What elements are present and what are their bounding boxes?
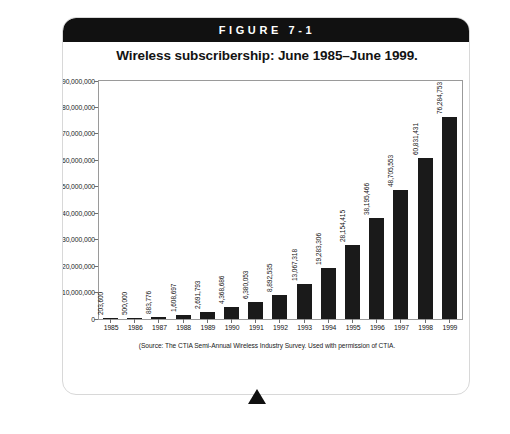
bar[interactable] bbox=[321, 268, 336, 319]
y-axis-tick-label: 50,000,000 bbox=[62, 183, 98, 190]
bar-slot: 6,380,053 bbox=[244, 81, 268, 319]
y-axis-tick-label: 10,000,000 bbox=[62, 289, 98, 296]
bar-slot: 60,831,431 bbox=[414, 81, 438, 319]
bar-value-label: 8,892,535 bbox=[266, 264, 273, 292]
bar-slot: 8,892,535 bbox=[268, 81, 292, 319]
bar-slot: 76,284,753 bbox=[438, 81, 462, 319]
x-axis-tick-label: 1992 bbox=[268, 324, 292, 331]
y-axis-tick-label: 30,000,000 bbox=[62, 236, 98, 243]
bar[interactable] bbox=[272, 295, 287, 319]
x-axis-tick-mark bbox=[255, 319, 256, 323]
figure-header-bar: FIGURE 7-1 bbox=[63, 18, 470, 42]
bar-value-label: 883,776 bbox=[145, 291, 152, 314]
x-axis-tick-mark bbox=[449, 319, 450, 323]
bar-value-label: 2,691,793 bbox=[194, 280, 201, 308]
y-axis-tick-label: 60,000,000 bbox=[62, 157, 98, 164]
x-axis-tick-label: 1996 bbox=[365, 324, 389, 331]
y-axis-tick-label: 80,000,000 bbox=[62, 104, 98, 111]
bar[interactable] bbox=[224, 307, 239, 319]
bar-slot: 13,067,318 bbox=[293, 81, 317, 319]
bar-slot: 883,776 bbox=[147, 81, 171, 319]
bar-value-label: 4,368,686 bbox=[218, 276, 225, 304]
x-axis-tick-mark bbox=[158, 319, 159, 323]
bar-value-label: 19,283,306 bbox=[315, 233, 322, 265]
x-axis-tick-mark bbox=[400, 319, 401, 323]
x-axis-tick-label: 1998 bbox=[414, 324, 438, 331]
bar-slot: 38,195,466 bbox=[365, 81, 389, 319]
bar-slot: 500,000 bbox=[123, 81, 147, 319]
bar-slot: 4,368,686 bbox=[220, 81, 244, 319]
y-axis-tick-label: 70,000,000 bbox=[62, 130, 98, 137]
bar-value-label: 500,000 bbox=[121, 292, 128, 315]
figure-card: FIGURE 7-1 Wireless subscribership: June… bbox=[62, 17, 470, 395]
triangle-pointer-icon bbox=[248, 389, 266, 404]
bar-value-label: 1,608,697 bbox=[170, 283, 177, 311]
bar[interactable] bbox=[248, 302, 263, 319]
bar-value-label: 28,154,415 bbox=[339, 210, 346, 242]
x-axis-tick-mark bbox=[183, 319, 184, 323]
x-axis-tick-mark bbox=[376, 319, 377, 323]
x-axis-tick-label: 1986 bbox=[123, 324, 147, 331]
x-axis-tick-mark bbox=[304, 319, 305, 323]
bar[interactable] bbox=[369, 218, 384, 319]
x-axis-tick-label: 1985 bbox=[99, 324, 123, 331]
y-axis-tick-label: 90,000,000 bbox=[62, 78, 98, 85]
bar-slot: 19,283,306 bbox=[317, 81, 341, 319]
bars-layer: 203,600500,000883,7761,608,6972,691,7934… bbox=[99, 81, 462, 319]
bar-slot: 2,691,793 bbox=[196, 81, 220, 319]
y-axis-tick-label: 20,000,000 bbox=[62, 263, 98, 270]
x-axis-tick-mark bbox=[279, 319, 280, 323]
bar-slot: 28,154,415 bbox=[341, 81, 365, 319]
figure-number-label: FIGURE 7-1 bbox=[219, 24, 316, 36]
x-axis: 1985198619871988198919901991199219931994… bbox=[99, 324, 462, 336]
bar-value-label: 60,831,431 bbox=[412, 123, 419, 155]
x-axis-tick-label: 1993 bbox=[293, 324, 317, 331]
x-axis-tick-label: 1995 bbox=[341, 324, 365, 331]
bar[interactable] bbox=[418, 158, 433, 319]
bar-value-label: 48,705,553 bbox=[387, 155, 394, 187]
bar[interactable] bbox=[297, 284, 312, 319]
bar-value-label: 38,195,466 bbox=[363, 183, 370, 215]
x-axis-tick-label: 1989 bbox=[196, 324, 220, 331]
x-axis-tick-mark bbox=[352, 319, 353, 323]
x-axis-tick-label: 1990 bbox=[220, 324, 244, 331]
bar-value-label: 13,067,318 bbox=[291, 249, 298, 281]
bar-slot: 48,705,553 bbox=[389, 81, 413, 319]
x-axis-tick-mark bbox=[231, 319, 232, 323]
bar[interactable] bbox=[442, 117, 457, 319]
bar-value-label: 6,380,053 bbox=[242, 271, 249, 299]
x-axis-tick-mark bbox=[207, 319, 208, 323]
x-axis-tick-mark bbox=[328, 319, 329, 323]
bar[interactable] bbox=[393, 190, 408, 319]
figure-title: Wireless subscribership: June 1985–June … bbox=[63, 48, 470, 63]
bar[interactable] bbox=[345, 245, 360, 319]
bar[interactable] bbox=[200, 312, 215, 319]
x-axis-tick-label: 1991 bbox=[244, 324, 268, 331]
x-axis-tick-mark bbox=[134, 319, 135, 323]
bar-slot: 203,600 bbox=[99, 81, 123, 319]
bar-value-label: 203,600 bbox=[97, 292, 104, 315]
x-axis-tick-mark bbox=[425, 319, 426, 323]
x-axis-tick-mark bbox=[110, 319, 111, 323]
bar-chart: 010,000,00020,000,00030,000,00040,000,00… bbox=[63, 76, 470, 376]
bar-value-label: 76,284,753 bbox=[436, 82, 443, 114]
bar-slot: 1,608,697 bbox=[172, 81, 196, 319]
x-axis-tick-label: 1999 bbox=[438, 324, 462, 331]
x-axis-tick-label: 1997 bbox=[389, 324, 413, 331]
x-axis-tick-label: 1987 bbox=[147, 324, 171, 331]
source-note: (Source: The CTIA Semi-Annual Wireless I… bbox=[63, 342, 470, 349]
x-axis-tick-label: 1994 bbox=[317, 324, 341, 331]
y-axis-tick-label: 40,000,000 bbox=[62, 210, 98, 217]
x-axis-tick-label: 1988 bbox=[172, 324, 196, 331]
